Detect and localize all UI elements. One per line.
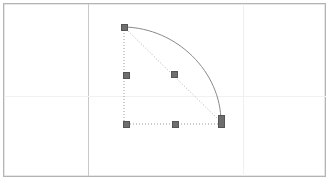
margin-guide-middle[interactable] — [4, 96, 326, 97]
handle-bottom-middle[interactable] — [172, 121, 179, 128]
handle-top-left[interactable] — [121, 24, 128, 31]
handle-chord-midpoint[interactable] — [171, 71, 178, 78]
handle-bottom-left[interactable] — [123, 121, 130, 128]
page-frame[interactable] — [3, 3, 326, 177]
margin-guide-right[interactable] — [243, 4, 244, 176]
margin-guide-left[interactable] — [88, 4, 89, 176]
drawing-canvas-root — [0, 0, 331, 183]
handle-bottom-right[interactable] — [218, 115, 225, 128]
handle-middle-left[interactable] — [123, 72, 130, 79]
